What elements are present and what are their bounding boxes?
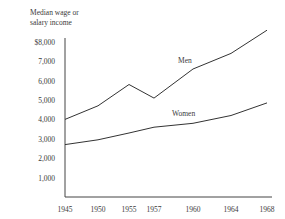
women-series-label: Women — [172, 109, 195, 118]
chart-plot — [0, 0, 285, 219]
women-series-line — [65, 103, 267, 145]
men-series-label: Men — [178, 56, 192, 65]
men-series-line — [65, 30, 267, 119]
